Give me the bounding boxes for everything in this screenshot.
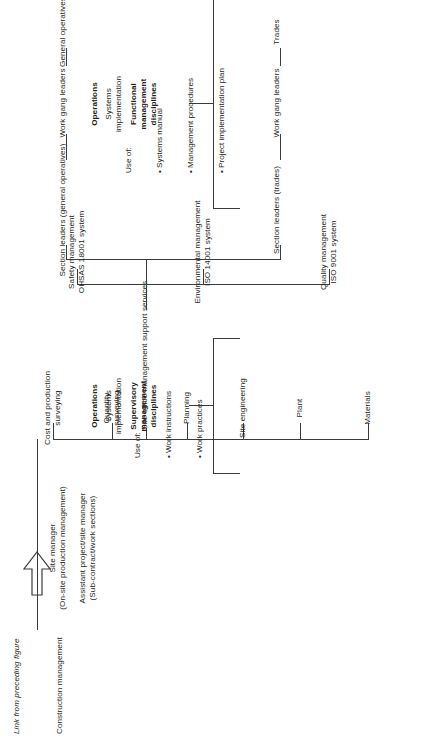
connector-root-to-site-manager	[37, 597, 38, 630]
node-assistant-manager-line1: Assistant project/site manager	[78, 448, 88, 648]
org-chart-canvas: Link from preceding figure Construction …	[0, 0, 421, 748]
org-chart-figure: Link from preceding figure Construction …	[0, 0, 421, 748]
callout-2-heading-operations: Operations	[90, 336, 100, 476]
trunk-main	[37, 440, 38, 597]
branch-label-plant: Plant	[295, 348, 305, 468]
branch-label-quality-management: Quality management ISO 9001 system	[319, 172, 339, 332]
node-general-operatives: General operatives	[58, 0, 68, 97]
link-from-preceding-figure-note: Link from preceding figure	[12, 574, 22, 734]
callout-1-use-of-item-1: • Systems manual	[155, 0, 165, 173]
branch-label-materials: Materials	[363, 348, 373, 468]
node-site-manager-line2: (On-site production management)	[58, 448, 68, 648]
callout-1-use-of-label: Use of:	[124, 0, 134, 173]
callout-bracket-2-left-stub	[213, 473, 240, 474]
trunk-joint	[37, 439, 38, 440]
callout-2-use-of-block: Use of: • Work instructions • Work pract…	[112, 258, 226, 458]
branch-label-cost-production-surveying: Cost and production surveying	[43, 338, 63, 478]
callout-2-use-of-label: Use of:	[133, 258, 143, 458]
callout-2-use-of-item-2: • Work practices	[195, 258, 205, 458]
callout-1-use-of-item-2: • Management procedures	[186, 0, 196, 173]
callout-2-use-of-item-1: • Work instructions	[164, 258, 174, 458]
node-assistant-manager-line2: (Sub-contract/work sections)	[88, 448, 98, 648]
callout-bracket-1-left-stub	[213, 208, 240, 209]
callout-1-use-of-block: Use of: • Systems manual • Management pr…	[103, 0, 249, 173]
branch-label-site-engineering: Site engineering	[238, 348, 248, 468]
branch-label-safety-management: Safety management OHSAS 18001 system	[67, 167, 87, 337]
callout-1-heading-operations: Operations	[90, 34, 100, 174]
callout-1-use-of-item-3: • Project implementation plan	[217, 0, 227, 173]
node-site-manager-line1: Site manager	[48, 463, 58, 633]
node-trades: Trades	[272, 0, 282, 77]
